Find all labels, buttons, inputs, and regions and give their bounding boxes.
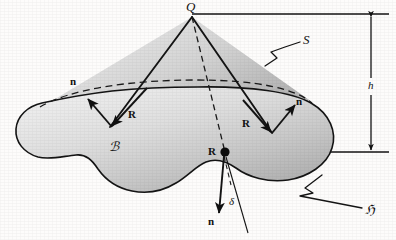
label-normal-left-n: n xyxy=(70,76,76,87)
label-body-B: ℬ xyxy=(109,140,119,153)
figure-container: Q S ℌ ℬ h δ n n n R R R xyxy=(0,0,396,240)
label-apex-Q: Q xyxy=(186,0,195,13)
label-radius-right-R: R xyxy=(242,118,250,129)
label-normal-right-n: n xyxy=(296,96,302,107)
label-delta: δ xyxy=(229,196,234,207)
point-R-marker xyxy=(220,147,229,156)
label-normal-bottom-n: n xyxy=(208,216,214,227)
body-blob xyxy=(16,87,334,192)
label-boundary-curve-C: ℌ xyxy=(365,203,375,216)
label-surface-S: S xyxy=(303,33,310,46)
label-radius-left-R: R xyxy=(128,109,136,120)
curve-leader-line xyxy=(300,175,362,208)
label-radius-center-R: R xyxy=(208,146,216,157)
diagram-svg xyxy=(0,0,396,240)
label-height-h: h xyxy=(368,80,374,91)
surface-leader-line xyxy=(265,42,300,66)
